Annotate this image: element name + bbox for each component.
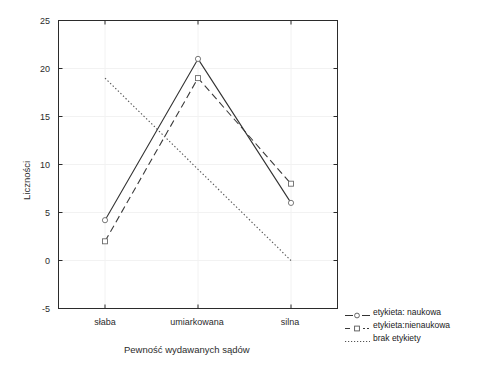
legend-label: brak etykiety xyxy=(371,334,421,343)
x-tick-label-umiarkowana: umiarkowana xyxy=(152,318,242,327)
y-tick-label: 15 xyxy=(18,113,50,122)
x-tick-label-silna: silna xyxy=(250,318,330,327)
legend-item-nienaukowa[interactable]: etykieta:nienaukowa xyxy=(345,319,488,332)
legend-swatch-dashed-square xyxy=(345,320,371,331)
y-tick-label: 20 xyxy=(18,65,50,74)
legend-label: etykieta:nienaukowa xyxy=(371,321,450,330)
x-tick-label-slaba: słaba xyxy=(65,318,145,327)
legend: etykieta: naukowa etykieta:nienaukowa br… xyxy=(345,306,488,345)
legend-item-brak-etykiety[interactable]: brak etykiety xyxy=(345,332,488,345)
legend-swatch-dotted xyxy=(345,333,371,344)
legend-item-naukowa[interactable]: etykieta: naukowa xyxy=(345,306,488,319)
y-tick-label: 25 xyxy=(18,17,50,26)
legend-label: etykieta: naukowa xyxy=(371,308,441,317)
y-axis-title: Liczności xyxy=(22,161,32,200)
line-chart: 25 20 15 10 5 0 -5 słaba umiarkowana sil… xyxy=(0,0,488,368)
y-tick-label: 5 xyxy=(18,209,50,218)
legend-swatch-solid-circle xyxy=(345,307,371,318)
y-tick-label: -5 xyxy=(18,305,50,314)
x-axis-title: Pewność wydawanych sądów xyxy=(124,345,250,355)
y-tick-label: 0 xyxy=(18,257,50,266)
